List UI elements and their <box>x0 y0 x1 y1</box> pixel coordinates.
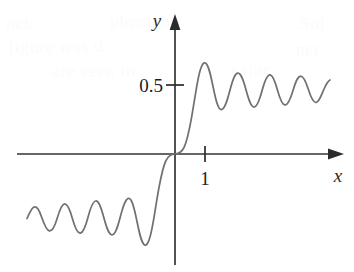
x-tick-label-1: 1 <box>200 168 210 189</box>
chart-svg: y x 0.5 1 <box>0 0 354 272</box>
vertical-axis <box>170 14 181 265</box>
y-axis-arrowhead <box>170 14 181 30</box>
y-tick-label-0.5: 0.5 <box>139 75 163 96</box>
x-axis-label: x <box>333 165 343 186</box>
y-axis-label: y <box>151 10 162 31</box>
chart-figure: y x 0.5 1 <box>0 0 354 272</box>
x-axis-arrowhead <box>328 148 344 159</box>
horizontal-axis <box>17 148 344 159</box>
